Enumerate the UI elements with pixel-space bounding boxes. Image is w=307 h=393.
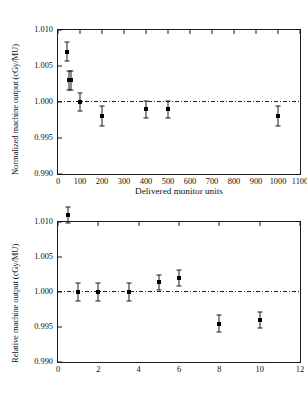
error-bar-cap xyxy=(177,270,182,271)
y-tick-label: 1.000 xyxy=(34,288,58,296)
data-point xyxy=(276,114,280,118)
chart-panel-bottom: Relative machine output (cGy/MU) 0.9900.… xyxy=(0,196,307,393)
data-point xyxy=(157,280,161,284)
error-bar-cap xyxy=(144,117,149,118)
error-bar-cap xyxy=(100,106,105,107)
error-bar-cap xyxy=(69,89,74,90)
y-tick-mark xyxy=(58,257,62,258)
data-point xyxy=(69,78,73,82)
y-tick-mark xyxy=(58,222,62,223)
x-tick-label: 800 xyxy=(228,174,241,186)
x-tick-mark xyxy=(212,30,213,34)
y-tick-label: 0.990 xyxy=(34,358,58,366)
data-point xyxy=(100,114,104,118)
error-bar-cap xyxy=(156,289,161,290)
y-tick-mark xyxy=(58,66,62,67)
error-bar-cap xyxy=(78,93,83,94)
error-bar-cap xyxy=(64,60,69,61)
y-axis-label-bottom: Relative machine output (cGy/MU) xyxy=(11,222,20,363)
error-bar-cap xyxy=(100,126,105,127)
y-tick-label: 0.995 xyxy=(34,323,58,331)
x-tick-label: 2 xyxy=(96,362,100,374)
x-tick-mark xyxy=(80,30,81,34)
x-tick-mark xyxy=(102,30,103,34)
x-tick-label: 12 xyxy=(296,362,304,374)
x-tick-mark xyxy=(300,222,301,226)
y-tick-mark xyxy=(58,327,62,328)
x-tick-label: 10 xyxy=(255,362,263,374)
y-tick-mark xyxy=(58,30,62,31)
error-bar-cap xyxy=(96,301,101,302)
y-tick-label: 0.995 xyxy=(34,134,58,142)
error-bar-cap xyxy=(276,106,281,107)
error-bar-cap xyxy=(257,327,262,328)
error-bar-cap xyxy=(144,100,149,101)
y-tick-label: 0.990 xyxy=(34,170,58,178)
x-tick-label: 0 xyxy=(56,174,60,186)
y-tick-label: 1.000 xyxy=(34,98,58,106)
x-tick-mark xyxy=(234,30,235,34)
error-bar-cap xyxy=(96,282,101,283)
error-bar-cap xyxy=(66,223,71,224)
error-bar-cap xyxy=(76,301,81,302)
data-point xyxy=(258,318,262,322)
x-tick-mark xyxy=(190,30,191,34)
x-tick-label: 100 xyxy=(74,174,87,186)
error-bar-cap xyxy=(156,274,161,275)
x-tick-label: 400 xyxy=(140,174,153,186)
y-tick-label: 1.010 xyxy=(34,218,58,226)
x-tick-mark xyxy=(278,30,279,34)
data-point xyxy=(96,290,100,294)
data-point xyxy=(127,290,131,294)
plot-area-top: 0.9900.9951.0001.0051.010010020030040050… xyxy=(57,29,301,175)
data-point xyxy=(65,50,69,54)
x-tick-label: 900 xyxy=(250,174,263,186)
error-bar-cap xyxy=(177,285,182,286)
x-tick-mark xyxy=(179,222,180,226)
data-point xyxy=(144,107,148,111)
x-tick-label: 200 xyxy=(96,174,109,186)
chart-panel-top: Normalized machine output (cGy/MU) 0.990… xyxy=(0,0,307,200)
error-bar-cap xyxy=(257,312,262,313)
x-tick-label: 300 xyxy=(118,174,131,186)
x-tick-label: 1000 xyxy=(270,174,287,186)
error-bar-cap xyxy=(126,301,131,302)
error-bar-cap xyxy=(166,117,171,118)
x-tick-mark xyxy=(58,222,59,226)
x-tick-mark xyxy=(168,30,169,34)
x-tick-label: 8 xyxy=(217,362,221,374)
plot-area-bottom: 0.9900.9951.0001.0051.010024681012 xyxy=(57,221,301,363)
error-bar-cap xyxy=(276,126,281,127)
x-tick-mark xyxy=(146,30,147,34)
data-point xyxy=(177,276,181,280)
x-tick-label: 4 xyxy=(137,362,141,374)
data-point xyxy=(217,322,221,326)
y-tick-label: 1.005 xyxy=(34,253,58,261)
data-point xyxy=(66,213,70,217)
error-bar-cap xyxy=(217,315,222,316)
data-point xyxy=(78,100,82,104)
error-bar-cap xyxy=(76,282,81,283)
y-tick-mark xyxy=(58,138,62,139)
x-tick-mark xyxy=(98,222,99,226)
error-bar-cap xyxy=(69,71,74,72)
y-tick-label: 1.010 xyxy=(34,26,58,34)
data-point xyxy=(166,107,170,111)
x-tick-mark xyxy=(259,222,260,226)
y-axis-label-top: Normalized machine output (cGy/MU) xyxy=(11,30,20,175)
x-tick-label: 700 xyxy=(206,174,219,186)
data-point xyxy=(76,290,80,294)
error-bar-cap xyxy=(126,282,131,283)
y-tick-label: 1.005 xyxy=(34,62,58,70)
x-tick-label: 6 xyxy=(177,362,181,374)
x-tick-label: 1100 xyxy=(292,174,307,186)
error-bar-cap xyxy=(66,206,71,207)
x-tick-label: 500 xyxy=(162,174,175,186)
x-tick-label: 600 xyxy=(184,174,197,186)
x-tick-mark xyxy=(219,222,220,226)
x-axis-label-top: Delivered monitor units xyxy=(57,186,301,196)
x-tick-mark xyxy=(138,222,139,226)
x-tick-label: 0 xyxy=(56,362,60,374)
x-tick-mark xyxy=(300,30,301,34)
error-bar-cap xyxy=(64,42,69,43)
